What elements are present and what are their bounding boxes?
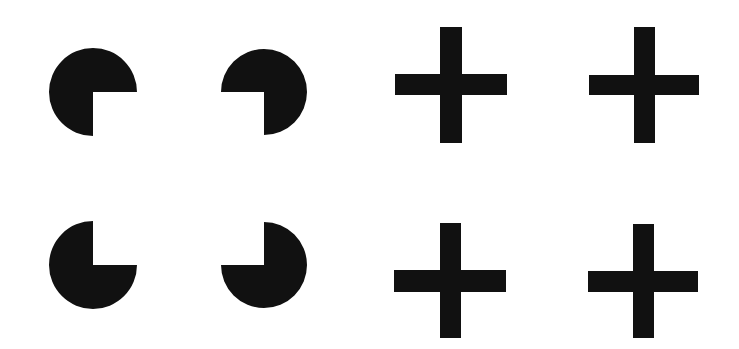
pacman-top-right [221, 49, 307, 135]
cross-top-left [395, 27, 507, 143]
pacman-bottom-right [221, 222, 307, 308]
cross-bottom-left [394, 223, 506, 338]
pacman-top-left [49, 48, 137, 136]
pacmen-group [49, 48, 307, 309]
cross-horizontal-bar [588, 271, 698, 292]
cross-bottom-right [588, 224, 698, 338]
cross-horizontal-bar [395, 74, 507, 95]
crosses-group [394, 27, 699, 338]
cross-horizontal-bar [589, 75, 699, 95]
illusion-figure [0, 0, 739, 349]
cross-top-right [589, 27, 699, 143]
cross-horizontal-bar [394, 270, 506, 292]
pacman-bottom-left [49, 221, 137, 309]
